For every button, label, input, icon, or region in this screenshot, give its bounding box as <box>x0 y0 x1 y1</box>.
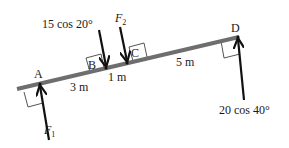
force-label-d: 20 cos 40° <box>219 103 270 117</box>
force-arrow-d <box>238 39 244 100</box>
distance-label-bc: 1 m <box>108 70 127 84</box>
force-arrow-f2 <box>120 27 127 61</box>
right-angle-d <box>221 41 240 58</box>
force-label-b: 15 cos 20° <box>42 17 93 31</box>
point-d-dot <box>236 35 239 38</box>
force-label-f1-sub: 1 <box>51 130 55 139</box>
point-label-c: C <box>131 46 139 60</box>
point-a-dot <box>38 82 41 85</box>
point-label-a: A <box>34 67 43 81</box>
point-label-d: D <box>231 21 240 35</box>
beam-diagram: A B C D 15 cos 20° F2 F1 20 cos 40° 3 m … <box>0 0 289 148</box>
right-angle-a <box>24 92 43 107</box>
distance-label-cd: 5 m <box>176 55 195 69</box>
force-label-f2-sub: 2 <box>122 18 126 27</box>
point-label-b: B <box>88 58 96 72</box>
point-c-dot <box>125 61 128 64</box>
force-label-f1: F1 <box>43 123 55 139</box>
distance-label-ab: 3 m <box>70 80 89 94</box>
force-label-f2: F2 <box>114 11 126 27</box>
